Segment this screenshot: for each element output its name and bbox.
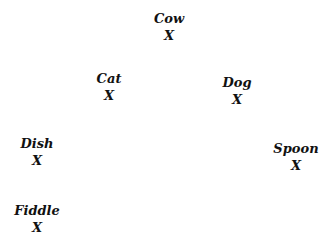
node-label: Cat	[97, 70, 122, 87]
x-marker-icon: X	[222, 91, 251, 108]
node-label: Spoon	[273, 140, 318, 157]
node-label: Fiddle	[14, 202, 60, 219]
node-dish: Dish X	[21, 135, 54, 169]
node-fiddle: Fiddle X	[14, 202, 60, 236]
node-label: Cow	[154, 10, 184, 27]
node-label: Dish	[21, 135, 54, 152]
node-cat: Cat X	[97, 70, 122, 104]
x-marker-icon: X	[14, 219, 60, 236]
node-cow: Cow X	[154, 10, 184, 44]
node-dog: Dog X	[222, 74, 251, 108]
x-marker-icon: X	[154, 27, 184, 44]
node-label: Dog	[222, 74, 251, 91]
x-marker-icon: X	[97, 87, 122, 104]
x-marker-icon: X	[21, 152, 54, 169]
node-spoon: Spoon X	[273, 140, 318, 174]
x-marker-icon: X	[273, 157, 318, 174]
